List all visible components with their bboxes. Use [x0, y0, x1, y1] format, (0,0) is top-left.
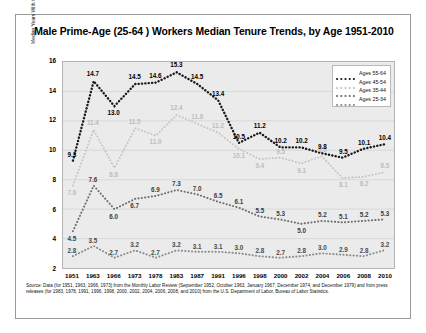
y-axis-title: Median Years With Current Employer [30, 0, 42, 83]
data-point-label: 10.1 [358, 139, 370, 146]
data-point-label: 7.0 [193, 185, 202, 192]
data-point-label: 2.8 [297, 247, 306, 254]
data-point-label: 10.2 [295, 137, 307, 144]
data-point-label: 2.9 [339, 246, 348, 253]
data-point-label: 9.8 [318, 143, 327, 150]
data-point-label: 5.2 [318, 211, 327, 218]
legend-item[interactable]: Ages 35-44 [336, 86, 386, 95]
data-point-label: 14.5 [128, 73, 140, 80]
data-point-label: 2.8 [360, 247, 369, 254]
data-point-label: 6.7 [130, 202, 139, 209]
data-point-label: 14.5 [191, 73, 203, 80]
legend-label: Ages 25-34 [359, 96, 386, 102]
plot-area: Median Years With Current Employer 24681… [62, 61, 395, 269]
data-point-label: 14.7 [87, 70, 99, 77]
data-point-label: 9.5 [276, 148, 285, 155]
legend-swatch-icon [336, 78, 356, 86]
data-point-label: 10.4 [379, 134, 391, 141]
data-point-label: 2.7 [109, 249, 118, 256]
y-tick-label: 4 [34, 235, 56, 242]
legend-label: Ages 35-44 [359, 87, 386, 93]
data-point-label: 7.3 [172, 180, 181, 187]
data-point-label: 3.0 [235, 244, 244, 251]
data-point-label: 3.0 [318, 244, 327, 251]
legend-swatch-icon [336, 69, 356, 77]
legend-item[interactable]: Ages 45-54 [336, 78, 386, 87]
y-tick-label: 16 [34, 57, 56, 64]
data-point-label: 11.2 [254, 122, 266, 129]
data-point-label: 13.0 [108, 109, 120, 116]
data-point-label: 5.3 [276, 210, 285, 217]
data-point-label: 3.2 [130, 241, 139, 248]
data-point-label: 5.2 [360, 211, 369, 218]
data-point-label: 3.1 [193, 243, 202, 250]
legend-swatch-icon [336, 95, 356, 103]
data-point-label: 11.0 [149, 138, 161, 145]
data-point-label: 4.5 [68, 235, 77, 242]
data-point-label: 5.5 [255, 207, 264, 214]
data-point-label: 5.0 [297, 227, 306, 234]
data-point-label: 12.4 [170, 104, 182, 111]
source-note: Source: Data (for 1951, 1963, 1966, 1973… [26, 283, 402, 295]
legend-item[interactable]: Ages 25-34 [336, 95, 386, 104]
data-point-label: 3.2 [172, 241, 181, 248]
data-point-label: 13.4 [212, 90, 224, 97]
data-point-label: 6.9 [151, 186, 160, 193]
legend-swatch-icon [336, 86, 356, 94]
data-point-label: 6.1 [235, 198, 244, 205]
data-point-label: 8.8 [109, 171, 118, 178]
data-point-label: 8.2 [360, 180, 369, 187]
data-point-label: 9.3 [68, 151, 77, 158]
data-point-label: 14.6 [149, 72, 161, 79]
data-point-label: 2.7 [151, 249, 160, 256]
data-point-label: 11.5 [129, 118, 141, 125]
data-point-label: 7.6 [88, 176, 97, 183]
y-tick-label: 6 [34, 206, 56, 213]
data-point-label: 9.4 [255, 162, 264, 169]
y-tick-label: 10 [34, 146, 56, 153]
legend-item[interactable]: Ages 55-64 [336, 69, 386, 78]
legend: Ages 55-64Ages 45-54Ages 35-44Ages 25-34 [332, 65, 391, 107]
data-point-label: 8.1 [339, 181, 348, 188]
data-point-label: 11.2 [212, 122, 224, 129]
y-tick-label: 8 [34, 176, 56, 183]
data-point-label: 2.8 [68, 247, 77, 254]
data-point-label: 6.0 [109, 213, 118, 220]
data-point-label: 2.8 [255, 247, 264, 254]
legend-label: Ages 55-64 [359, 70, 386, 76]
data-point-label: 9.1 [297, 167, 306, 174]
y-tick-label: 14 [34, 87, 56, 94]
data-point-label: 10.1 [233, 152, 245, 159]
data-point-label: 6.5 [214, 192, 223, 199]
x-tick-label: 2010 [365, 272, 405, 279]
data-point-label: 5.1 [339, 213, 348, 220]
data-point-label: 2.7 [276, 249, 285, 256]
data-point-label: 8.5 [381, 162, 390, 169]
legend-label: Ages 45-54 [359, 79, 386, 85]
data-point-label: 5.3 [381, 210, 390, 217]
page-title: Male Prime-Age (25-64 ) Workers Median T… [16, 26, 412, 37]
data-point-label: 10.5 [233, 133, 245, 140]
data-point-label: 11.4 [87, 119, 99, 126]
y-tick-label: 12 [34, 116, 56, 123]
data-point-label: 3.5 [88, 237, 97, 244]
data-point-label: 3.2 [381, 241, 390, 248]
y-tick-label: 2 [34, 265, 56, 272]
data-point-label: 3.1 [214, 243, 223, 250]
chart-card: Male Prime-Age (25-64 ) Workers Median T… [15, 14, 411, 319]
data-point-label: 7.6 [68, 189, 77, 196]
data-point-label: 10.2 [275, 137, 287, 144]
data-point-label: 11.8 [191, 113, 203, 120]
data-point-label: 15.3 [170, 61, 182, 68]
data-point-label: 9.5 [339, 148, 348, 155]
